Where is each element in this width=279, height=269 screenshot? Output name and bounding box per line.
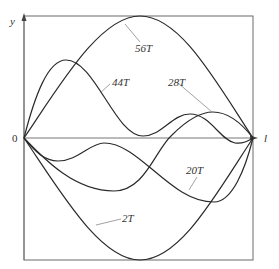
- curve-44T: [24, 60, 253, 143]
- y-axis-arrow-icon: [22, 13, 27, 21]
- leader-20T: [189, 177, 197, 190]
- curve-2T: [24, 138, 253, 260]
- origin-label: 0: [12, 132, 18, 144]
- label-2T: 2T: [122, 212, 135, 224]
- string-vibration-diagram: y l 0 56T 44T 28T 20T 2T: [0, 0, 279, 269]
- x-axis-label: l: [264, 132, 267, 144]
- curve-56T: [24, 16, 253, 138]
- label-20T: 20T: [186, 164, 204, 176]
- leader-2T: [96, 219, 121, 225]
- curve-28T: [24, 112, 253, 191]
- label-56T: 56T: [135, 42, 153, 54]
- leader-44T: [100, 84, 110, 93]
- y-axis-label: y: [9, 15, 15, 27]
- label-28T: 28T: [168, 76, 186, 88]
- leader-56T: [125, 24, 140, 42]
- label-44T: 44T: [112, 76, 130, 88]
